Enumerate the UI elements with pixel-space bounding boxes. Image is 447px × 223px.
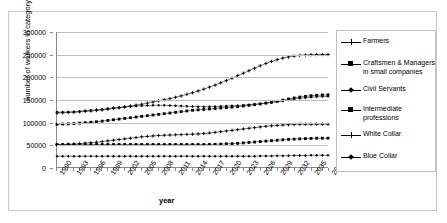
- legend-marker-icon: [341, 106, 361, 114]
- y-tick-mark: [50, 100, 53, 101]
- x-tick-mark: [192, 168, 193, 171]
- legend-label: Craftsmen & Managers in small companies: [361, 59, 435, 76]
- x-tick-mark: [243, 168, 244, 171]
- chart-legend: FarmersCraftsmen & Managers in small com…: [336, 30, 436, 172]
- y-tick-mark: [50, 32, 53, 33]
- y-tick-label: 150000: [23, 97, 46, 104]
- y-tick-label: 300000: [23, 29, 46, 36]
- x-tick-mark: [260, 168, 261, 171]
- x-tick-mark: [124, 168, 125, 171]
- y-tick-mark: [50, 77, 53, 78]
- x-tick-mark: [73, 168, 74, 171]
- x-tick-mark: [141, 168, 142, 171]
- y-tick-label: 250000: [23, 51, 46, 58]
- chart-screenshot: number of workers in category 3000002500…: [0, 0, 447, 223]
- plot-area: [56, 32, 328, 168]
- legend-marker-icon: [341, 86, 361, 94]
- legend-marker-icon: [341, 60, 361, 68]
- x-tick-mark: [311, 168, 312, 171]
- y-tick-mark: [50, 55, 53, 56]
- x-axis-tick-labels: 1990199319961999200220052008201120142017…: [56, 172, 346, 206]
- legend-item-civil-servants[interactable]: Civil Servants: [341, 85, 435, 94]
- y-tick-label: 50000: [27, 142, 46, 149]
- clipped-title-text: [22, 0, 212, 7]
- x-tick-mark: [107, 168, 108, 171]
- x-tick-mark: [209, 168, 210, 171]
- y-tick-label: 0: [42, 165, 46, 172]
- gridline: [57, 77, 328, 78]
- y-tick-label: 100000: [23, 119, 46, 126]
- gridline: [57, 100, 328, 101]
- series-white-collar: [55, 123, 329, 147]
- y-tick-label: 200000: [23, 74, 46, 81]
- y-tick-mark: [50, 168, 53, 169]
- x-tick-mark: [56, 168, 57, 171]
- legend-marker-icon: [341, 38, 361, 46]
- gridline: [57, 123, 328, 124]
- y-tick-mark: [50, 123, 53, 124]
- x-tick-mark: [226, 168, 227, 171]
- y-tick-mark: [50, 145, 53, 146]
- legend-item-farmers[interactable]: Farmers: [341, 37, 435, 46]
- gridline: [57, 145, 328, 146]
- x-tick-mark: [328, 168, 329, 171]
- legend-label: Farmers: [361, 37, 389, 46]
- x-axis-title: year: [159, 196, 174, 205]
- chart-frame: number of workers in category 3000002500…: [8, 11, 437, 211]
- gridline: [57, 32, 328, 33]
- x-tick-mark: [294, 168, 295, 171]
- x-tick-mark: [90, 168, 91, 171]
- legend-label: Intermediate professions: [361, 105, 435, 122]
- legend-label: White Collar: [361, 130, 401, 139]
- legend-label: Blue Collar: [361, 152, 397, 161]
- legend-item-white-collar[interactable]: White Collar: [341, 130, 435, 139]
- legend-marker-icon: [341, 131, 361, 139]
- legend-item-intermediate-professions[interactable]: Intermediate professions: [341, 105, 435, 122]
- legend-marker-icon: [341, 153, 361, 161]
- legend-label: Civil Servants: [361, 85, 406, 94]
- series-blue-collar: [56, 154, 330, 158]
- legend-item-craftsmen-managers-in-small-companies[interactable]: Craftsmen & Managers in small companies: [341, 59, 435, 76]
- x-tick-mark: [277, 168, 278, 171]
- y-axis-tick-labels: 300000250000200000150000100000500000: [9, 32, 53, 168]
- x-tick-mark: [175, 168, 176, 171]
- gridline: [57, 55, 328, 56]
- legend-item-blue-collar[interactable]: Blue Collar: [341, 152, 435, 161]
- x-tick-mark: [158, 168, 159, 171]
